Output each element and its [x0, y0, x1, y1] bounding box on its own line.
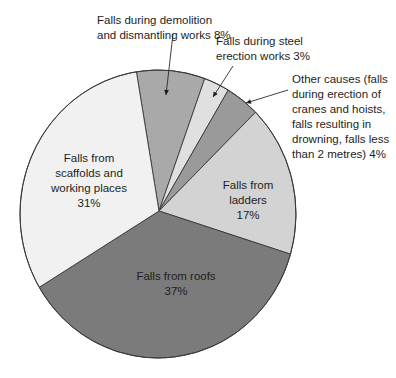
slice-label-line: than 2 metres) 4% [292, 148, 386, 160]
slice-label-line: Falls from [223, 179, 273, 191]
slice-label-line: and dismantling works 8% [97, 29, 231, 41]
slice-label-line: drowning, falls less [292, 133, 389, 145]
slice-label-line: cranes and hoists, [292, 103, 385, 115]
slice-label-line: scaffolds and [55, 167, 123, 179]
slice-label-line: during erection of [292, 88, 382, 100]
slice-label-line: ladders [229, 194, 267, 206]
slice-label-line: working places [50, 182, 127, 194]
slice-label-line: 37% [164, 285, 187, 297]
slice-label-other-causes-falls-during-erection-of-cr: Other causes (fallsduring erection ofcra… [292, 73, 389, 160]
slice-label-line: Falls during demolition [97, 14, 212, 26]
slice-label-line: 31% [77, 197, 100, 209]
slice-label-line: Falls from roofs [136, 270, 215, 282]
slice-label-line: 17% [236, 209, 259, 221]
leader-line-other-causes-falls-during-erection-of-cr [246, 90, 288, 103]
slice-label-line: Falls during steel [216, 35, 303, 47]
slice-label-falls-during-demolition-and-dismantling-: Falls during demolitionand dismantling w… [97, 14, 231, 41]
slice-label-line: Falls from [64, 152, 114, 164]
slice-label-line: erection works 3% [216, 50, 310, 62]
pie-chart: Falls during demolitionand dismantling w… [0, 0, 396, 378]
slice-label-falls-during-steel-erection-works: Falls during steelerection works 3% [216, 35, 310, 62]
slice-label-line: Other causes (falls [292, 73, 388, 85]
slice-label-line: falls resulting in [292, 118, 371, 130]
